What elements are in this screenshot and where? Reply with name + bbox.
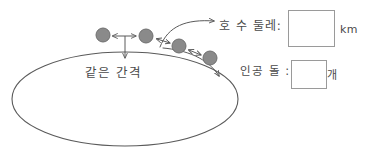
stone-marker-4 (203, 51, 217, 65)
unit-kilometer-label: km (340, 23, 358, 36)
perimeter-answer-box[interactable] (288, 10, 335, 47)
worksheet-diagram: 같은 간격 호 수 둘레: 인공 돌 : km 개 (0, 0, 368, 158)
equal-spacing-label: 같은 간격 (85, 62, 142, 81)
artificial-stones-label: 인공 돌 : (240, 62, 290, 78)
stone-marker-1 (96, 28, 110, 42)
stone-marker-3 (172, 39, 186, 53)
stone-marker-2 (139, 29, 153, 43)
lake-perimeter-label: 호 수 둘레: (219, 16, 282, 33)
perimeter-callout-arrow (160, 21, 214, 47)
unit-count-label: 개 (327, 66, 338, 82)
stones-answer-box[interactable] (291, 60, 327, 89)
